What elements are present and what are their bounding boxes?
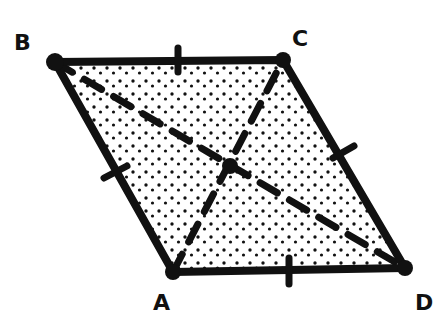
label-c: C	[292, 26, 308, 51]
vertex-a	[165, 264, 181, 280]
vertex-c	[275, 52, 291, 68]
label-a: A	[153, 290, 170, 315]
label-d: D	[415, 290, 433, 315]
rhombus-diagram: A B C D	[0, 0, 447, 335]
vertex-b	[46, 53, 64, 71]
label-b: B	[14, 30, 31, 55]
vertex-d	[397, 260, 413, 276]
diagonal-intersection	[222, 158, 238, 174]
